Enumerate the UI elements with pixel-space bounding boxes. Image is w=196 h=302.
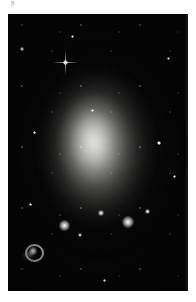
scan-artifact — [11, 1, 15, 9]
astronomical-photograph-plate — [8, 14, 188, 291]
plate-edge-highlight — [185, 14, 188, 291]
plate-vignette — [8, 14, 188, 291]
page — [0, 0, 196, 302]
